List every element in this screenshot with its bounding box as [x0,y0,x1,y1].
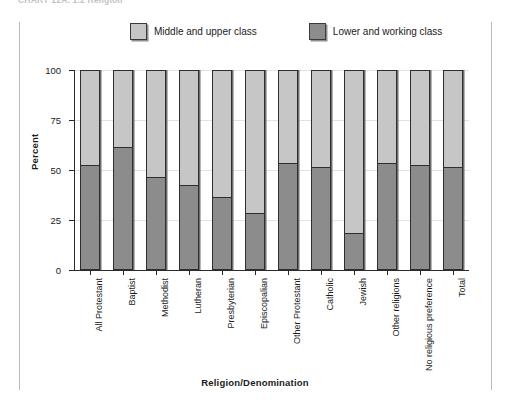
bar-segment-lower-working-class [147,177,165,269]
x-axis-tick [387,270,388,275]
x-axis-category-label: Other religions [391,278,401,337]
y-axis-tick-label: 75 [50,115,61,126]
x-axis-tick [156,270,157,275]
x-axis-tick [255,270,256,275]
y-axis-tick-label: 100 [45,65,61,76]
bar-segment-lower-working-class [378,163,396,269]
bar-other-religions [377,70,397,270]
bar-catholic [311,70,331,270]
x-axis-tick [354,270,355,275]
bar-episcopalian [245,70,265,270]
bar-methodist [146,70,166,270]
plot-area: 0255075100 [74,70,469,270]
x-axis-category-label: Presbyterian [226,278,236,329]
frame-rule-left [19,22,20,390]
x-axis-category-label: Episcopalian [259,278,269,329]
x-axis-tick [222,270,223,275]
bar-group [74,70,469,270]
chart-legend: Middle and upper class Lower and working… [130,23,442,40]
bar-lutheran [179,70,199,270]
chart-caption: CHART 12A. 1.2 Religion [18,0,123,5]
x-axis-tick [420,270,421,275]
bar-segment-lower-working-class [279,163,297,269]
x-axis-line [74,270,469,271]
bar-all-protestant [80,70,100,270]
bar-segment-lower-working-class [213,197,231,269]
x-axis-category-label: All Protestant [94,278,104,332]
x-axis-tick [321,270,322,275]
bar-segment-lower-working-class [444,167,462,269]
bar-segment-lower-working-class [312,167,330,269]
x-axis-tick [453,270,454,275]
x-axis-tick [123,270,124,275]
x-axis-category-label: Total [457,278,467,297]
x-axis-category-label: Other Protestant [292,278,302,344]
bar-segment-lower-working-class [246,213,264,269]
legend-entry-lower-working-class: Lower and working class [309,23,443,40]
bar-no-religious-preference [410,70,430,270]
x-axis-category-label: Lutheran [193,278,203,314]
legend-label-lower-working: Lower and working class [333,26,443,37]
legend-swatch-icon-lower-working [309,23,326,40]
y-axis-tick-label: 50 [50,165,61,176]
x-axis-category-label: Catholic [325,278,335,311]
legend-entry-middle-upper-class: Middle and upper class [130,23,257,40]
x-axis-category-label: No religious preference [424,278,434,371]
bar-other-protestant [278,70,298,270]
x-axis-category-label: Methodist [160,278,170,317]
y-axis-tick: 0 [69,270,74,271]
x-axis-category-labels: All ProtestantBaptistMethodistLutheranPr… [74,278,469,373]
x-axis-tick [189,270,190,275]
bar-segment-lower-working-class [411,165,429,269]
bar-segment-lower-working-class [114,147,132,269]
x-axis-tick [90,270,91,275]
x-axis-category-label: Jewish [358,278,368,306]
bar-total [443,70,463,270]
legend-swatch-icon-middle-upper [130,23,147,40]
x-axis-title: Religion/Denomination [0,377,510,388]
bar-jewish [344,70,364,270]
bar-baptist [113,70,133,270]
frame-rule-right [491,22,492,390]
legend-label-middle-upper: Middle and upper class [154,26,257,37]
bar-segment-lower-working-class [180,185,198,269]
x-axis-tick [288,270,289,275]
y-axis-tick-label: 25 [50,215,61,226]
x-axis-category-label: Baptist [127,278,137,306]
y-axis-tick-label: 0 [56,265,61,276]
bar-segment-lower-working-class [81,165,99,269]
bar-segment-lower-working-class [345,233,363,269]
bar-presbyterian [212,70,232,270]
chart-screenshot: CHART 12A. 1.2 Religion Middle and upper… [0,0,510,412]
y-axis-title: Percent [29,134,40,170]
